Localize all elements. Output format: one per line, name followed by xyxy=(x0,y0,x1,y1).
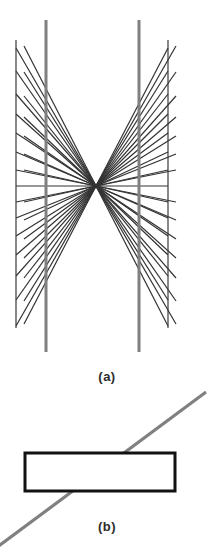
caption-b: (b) xyxy=(0,519,214,534)
occluder-rectangle xyxy=(25,453,175,491)
illusion-figure-svg xyxy=(0,0,214,555)
caption-a: (a) xyxy=(0,369,214,384)
figure-root: (a) (b) xyxy=(0,0,214,555)
